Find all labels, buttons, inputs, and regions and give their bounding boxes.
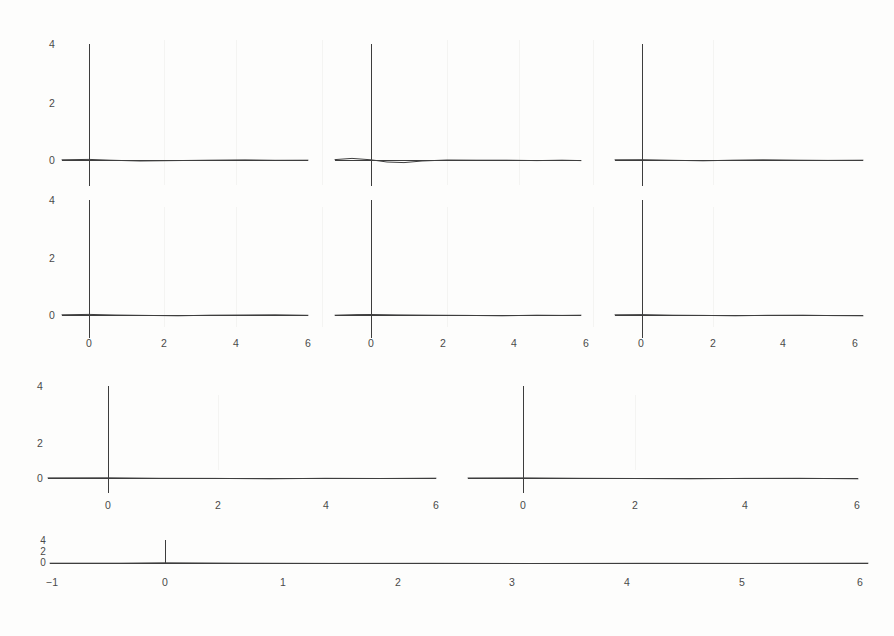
xtick-label-6: 6 (854, 500, 860, 511)
panel-r3c1-canvas (0, 370, 460, 520)
xtick-label-4: 4 (742, 500, 748, 511)
ytick-label-2: 2 (37, 438, 43, 449)
ytick-label-0: 0 (37, 473, 43, 484)
xtick-label-2: 2 (440, 338, 446, 349)
ytick-label-4: 4 (37, 381, 43, 392)
figure-root: 4 2 0 4 2 (0, 0, 894, 636)
xtick-label-0: 0 (368, 338, 374, 349)
xtick-label-5: 5 (739, 577, 745, 588)
xtick-label-4: 4 (323, 500, 329, 511)
xtick-label-4: 4 (233, 338, 239, 349)
xtick-label-4: 4 (624, 577, 630, 588)
panel-bottom-strip[interactable]: 4 2 0 −1 0 1 2 3 4 5 6 (0, 525, 894, 605)
xtick-label-6: 6 (433, 500, 439, 511)
ytick-label-2: 2 (40, 547, 46, 557)
xtick-label-2: 2 (395, 577, 401, 588)
panel-r3c1[interactable]: 4 2 0 0 2 4 6 (0, 370, 460, 520)
ytick-label-2: 2 (49, 98, 55, 109)
xtick-label-2: 2 (215, 500, 221, 511)
ytick-label-0: 0 (40, 558, 46, 568)
xtick-label-0: 0 (638, 338, 644, 349)
xtick-label-4: 4 (511, 338, 517, 349)
ytick-label-4: 4 (49, 39, 55, 50)
xtick-label-2: 2 (710, 338, 716, 349)
xtick-label-0: 0 (162, 577, 168, 588)
xtick-label-6: 6 (857, 577, 863, 588)
panel-r2c3[interactable]: 0 2 4 6 (553, 155, 894, 355)
xtick-label-0: 0 (520, 500, 526, 511)
panel-r2c3-canvas (553, 155, 894, 355)
xtick-label-neg1: −1 (46, 577, 58, 588)
xtick-label-0: 0 (105, 500, 111, 511)
ytick-label-4: 4 (40, 536, 46, 546)
panel-r3c2-canvas (440, 370, 894, 520)
ytick-label-4: 4 (49, 195, 55, 206)
ytick-label-2: 2 (49, 253, 55, 264)
xtick-label-6: 6 (852, 338, 858, 349)
xtick-label-3: 3 (509, 577, 515, 588)
panel-r2c1[interactable]: 4 2 0 0 2 4 6 (0, 155, 330, 355)
panel-bottom-canvas (0, 525, 894, 605)
panel-r3c2[interactable]: 0 2 4 6 (440, 370, 894, 520)
xtick-label-2: 2 (161, 338, 167, 349)
ytick-label-0: 0 (49, 310, 55, 321)
xtick-label-4: 4 (780, 338, 786, 349)
xtick-label-0: 0 (86, 338, 92, 349)
xtick-label-2: 2 (632, 500, 638, 511)
xtick-label-1: 1 (280, 577, 286, 588)
